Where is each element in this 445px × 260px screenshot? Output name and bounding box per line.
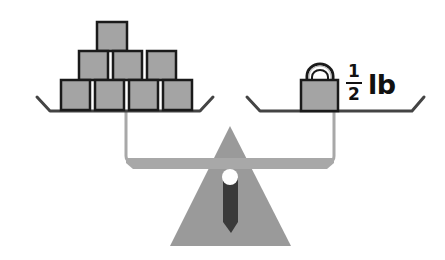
- weight-unit-label: lb: [368, 70, 396, 100]
- cube: [129, 80, 158, 110]
- padlock-weight-icon: [301, 64, 338, 111]
- balance-scale-diagram: [0, 0, 445, 260]
- cube: [61, 80, 90, 110]
- weight-fraction-label: 1 2: [346, 62, 362, 103]
- cube: [97, 22, 127, 51]
- fraction-denominator: 2: [346, 85, 362, 103]
- needle-pointer: [223, 178, 238, 233]
- cube: [163, 80, 192, 110]
- cube-stack: [61, 22, 192, 110]
- beam-bar: [126, 158, 334, 169]
- pivot-circle: [222, 169, 238, 185]
- cube: [95, 80, 124, 110]
- cube: [147, 51, 176, 80]
- cube: [79, 51, 108, 80]
- cube: [113, 51, 142, 80]
- fraction-numerator: 1: [346, 62, 362, 80]
